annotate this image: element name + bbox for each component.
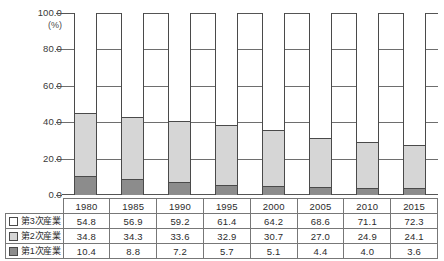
chart-plot-region: 100.0 (%) 80.0 60.0 40.0 20.0 0.0 [0, 0, 444, 197]
table-body: 第3次産業54.856.959.261.464.268.671.172.3第2次… [6, 214, 438, 259]
bar-segment-2010-s2 [357, 142, 378, 187]
bar-segment-1985-s3 [122, 13, 143, 117]
table-header-2000: 2000 [250, 199, 297, 214]
table-cell-2005-s2: 27.0 [297, 229, 344, 244]
bar-column-1980 [62, 13, 109, 195]
legend-label: 第3次産業 [21, 215, 61, 228]
table-header-1990: 1990 [157, 199, 204, 214]
bar-segment-1995-s2 [216, 125, 237, 185]
bar-segment-2000-s3 [263, 13, 284, 130]
bar-segment-2005-s2 [310, 138, 331, 187]
bar-segment-1995-s3 [216, 13, 237, 125]
data-table: 1980 1985 1990 1995 2000 2005 2010 2015 … [5, 198, 438, 259]
table-cell-1995-s3: 61.4 [203, 214, 250, 229]
stacked-bar-1985 [121, 13, 144, 195]
table-cell-1995-s2: 32.9 [203, 229, 250, 244]
table-cell-2015-s1: 3.6 [391, 244, 438, 259]
table-cell-1980-s3: 54.8 [63, 214, 110, 229]
table-cell-2010-s2: 24.9 [344, 229, 391, 244]
table-cell-2005-s1: 4.4 [297, 244, 344, 259]
bar-column-2005 [297, 13, 344, 195]
table-cell-2010-s3: 71.1 [344, 214, 391, 229]
stacked-bar-2010 [356, 13, 379, 195]
bar-segment-1980-s1 [75, 176, 96, 195]
bar-segment-2005-s3 [310, 13, 331, 138]
bar-segment-1985-s2 [122, 117, 143, 179]
stacked-bar-2000 [262, 13, 285, 195]
table-cell-2000-s1: 5.1 [250, 244, 297, 259]
table-row: 第2次産業34.834.333.632.930.727.024.924.1 [6, 229, 438, 244]
legend-label: 第2次産業 [21, 230, 61, 243]
table-cell-1995-s1: 5.7 [203, 244, 250, 259]
table-header-1995: 1995 [203, 199, 250, 214]
table-cell-2000-s3: 64.2 [250, 214, 297, 229]
table-cell-2015-s3: 72.3 [391, 214, 438, 229]
bar-segment-1980-s2 [75, 113, 96, 176]
bar-column-1990 [156, 13, 203, 195]
bar-segment-2015-s3 [404, 13, 425, 145]
legend-swatch-icon [9, 247, 18, 256]
table-cell-1990-s3: 59.2 [157, 214, 204, 229]
table-row: 第3次産業54.856.959.261.464.268.671.172.3 [6, 214, 438, 229]
bar-segment-2010-s1 [357, 188, 378, 195]
table-row: 第1次産業10.48.87.25.75.14.44.03.6 [6, 244, 438, 259]
stacked-bar-chart-figure: 100.0 (%) 80.0 60.0 40.0 20.0 0.0 1980 [0, 0, 444, 261]
legend-label: 第1次産業 [21, 245, 61, 258]
y-axis-unit-label: (%) [16, 20, 62, 30]
table-cell-1990-s1: 7.2 [157, 244, 204, 259]
table-header-2005: 2005 [297, 199, 344, 214]
table-cell-2015-s2: 24.1 [391, 229, 438, 244]
bar-segment-1990-s3 [169, 13, 190, 121]
bar-segment-2015-s1 [404, 188, 425, 195]
table-cell-2010-s1: 4.0 [344, 244, 391, 259]
bar-column-1995 [203, 13, 250, 195]
table-cell-1980-s2: 34.8 [63, 229, 110, 244]
legend-cell-2: 第2次産業 [6, 229, 64, 244]
bar-segment-1985-s1 [122, 179, 143, 195]
bar-segment-1995-s1 [216, 185, 237, 195]
y-axis-tick-mark-0 [56, 195, 62, 196]
table-corner-cell [6, 199, 64, 214]
bar-segment-2000-s2 [263, 130, 284, 186]
table-cell-2000-s2: 30.7 [250, 229, 297, 244]
stacked-bar-2005 [309, 13, 332, 195]
bar-segment-2015-s2 [404, 145, 425, 189]
table-header-1980: 1980 [63, 199, 110, 214]
bar-segment-2010-s3 [357, 13, 378, 142]
table-header-2015: 2015 [391, 199, 438, 214]
table-cell-1990-s2: 33.6 [157, 229, 204, 244]
stacked-bar-2015 [403, 13, 426, 195]
table-header-row: 1980 1985 1990 1995 2000 2005 2010 2015 [6, 199, 438, 214]
table-cell-2005-s3: 68.6 [297, 214, 344, 229]
bar-column-2010 [344, 13, 391, 195]
bar-segment-1990-s1 [169, 182, 190, 195]
table-cell-1985-s1: 8.8 [110, 244, 157, 259]
table-cell-1985-s3: 56.9 [110, 214, 157, 229]
bar-segment-1990-s2 [169, 121, 190, 182]
table-cell-1980-s1: 10.4 [63, 244, 110, 259]
stacked-bar-1980 [74, 13, 97, 195]
stacked-bar-1990 [168, 13, 191, 195]
legend-swatch-icon [9, 232, 18, 241]
legend-swatch-icon [9, 217, 18, 226]
bar-column-1985 [109, 13, 156, 195]
legend-cell-1: 第1次産業 [6, 244, 64, 259]
plot-area [62, 13, 438, 195]
bar-segment-2005-s1 [310, 187, 331, 195]
stacked-bar-1995 [215, 13, 238, 195]
bar-column-2000 [250, 13, 297, 195]
table-cell-1985-s2: 34.3 [110, 229, 157, 244]
table-header-2010: 2010 [344, 199, 391, 214]
legend-cell-3: 第3次産業 [6, 214, 64, 229]
table-header-1985: 1985 [110, 199, 157, 214]
bar-segment-2000-s1 [263, 186, 284, 195]
bar-column-2015 [391, 13, 438, 195]
bar-segment-1980-s3 [75, 13, 96, 113]
